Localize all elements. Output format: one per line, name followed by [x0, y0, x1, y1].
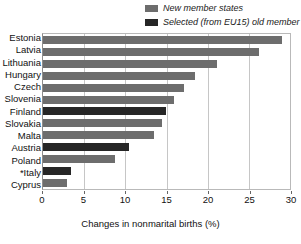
bar — [43, 36, 282, 44]
bar — [43, 131, 154, 139]
bar-chart: New member states Selected (from EU15) o… — [0, 0, 301, 244]
bar — [43, 155, 115, 163]
legend-label-new-member-states: New member states — [163, 3, 243, 13]
x-axis-tick-label: 15 — [161, 194, 172, 205]
y-axis-category-labels: EstoniaLatviaLithuaniaHungaryCzechSloven… — [0, 33, 41, 190]
bar-row — [43, 129, 290, 141]
bar — [43, 107, 166, 115]
bar-row — [43, 94, 290, 106]
bar — [43, 179, 67, 187]
x-axis-tick-label: 20 — [203, 194, 214, 205]
y-axis-label: Austria — [0, 143, 41, 153]
plot-wrapper: EstoniaLatviaLithuaniaHungaryCzechSloven… — [0, 31, 301, 244]
x-axis: 051015202530 — [42, 191, 291, 207]
bar-row — [43, 58, 290, 70]
legend-label-old-member-states: Selected (from EU15) old member states — [163, 17, 301, 27]
bar-row — [43, 82, 290, 94]
y-axis-label: Hungary — [0, 70, 41, 80]
y-axis-label: Latvia — [0, 45, 41, 55]
legend-item-old-member-states: Selected (from EU15) old member states — [145, 16, 301, 28]
bar — [43, 48, 259, 56]
legend-swatch-old-member-states — [145, 19, 158, 26]
y-axis-label: Malta — [0, 131, 41, 141]
y-axis-label: Czech — [0, 82, 41, 92]
legend-swatch-new-member-states — [145, 5, 158, 12]
x-axis-tick-label: 25 — [244, 194, 255, 205]
bar-row — [43, 34, 290, 46]
y-axis-label: Cyprus — [0, 180, 41, 190]
bar-row — [43, 153, 290, 165]
bar — [43, 84, 184, 92]
bar-series-container — [43, 34, 290, 189]
x-axis-tick-label: 0 — [39, 194, 44, 205]
bar — [43, 60, 217, 68]
bar-row — [43, 117, 290, 129]
y-axis-label: Finland — [0, 107, 41, 117]
plot-area — [42, 33, 291, 190]
bar-row — [43, 177, 290, 189]
bar — [43, 119, 162, 127]
y-axis-label: Poland — [0, 156, 41, 166]
bar — [43, 72, 195, 80]
y-axis-label: Slovenia — [0, 94, 41, 104]
y-axis-label: *Italy — [0, 168, 41, 178]
y-axis-label: Lithuania — [0, 58, 41, 68]
legend-item-new-member-states: New member states — [145, 2, 301, 14]
bar-row — [43, 70, 290, 82]
bar — [43, 96, 174, 104]
y-axis-label: Slovakia — [0, 119, 41, 129]
bar — [43, 167, 71, 175]
bar-row — [43, 165, 290, 177]
x-axis-tick-label: 30 — [286, 194, 297, 205]
x-axis-tick-label: 5 — [81, 194, 86, 205]
x-axis-title: Changes in nonmarital births (%) — [0, 218, 301, 229]
x-axis-tick-label: 10 — [120, 194, 131, 205]
bar — [43, 143, 129, 151]
bar-row — [43, 46, 290, 58]
chart-legend: New member states Selected (from EU15) o… — [145, 2, 301, 30]
y-axis-label: Estonia — [0, 33, 41, 43]
bar-row — [43, 141, 290, 153]
bar-row — [43, 106, 290, 118]
